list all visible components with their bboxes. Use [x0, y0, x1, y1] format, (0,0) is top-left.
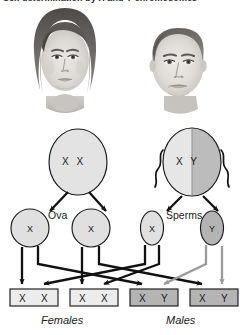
- offspring-box-3: [130, 289, 178, 306]
- ovum-2-allele: X: [88, 224, 94, 234]
- ovum-1-allele: X: [27, 224, 33, 234]
- offspring-2-allele-2: X: [101, 293, 108, 304]
- offspring-3-allele-1: X: [139, 293, 146, 304]
- sex-determination-figure: Sex determination by X and Y chromosomes: [0, 0, 240, 335]
- female-parent-genotype: X X: [62, 156, 86, 167]
- females-label: Females: [41, 314, 83, 326]
- males-label: Males: [166, 314, 195, 326]
- male-parent-photo: [136, 6, 218, 118]
- offspring-4-allele-2: Y: [221, 293, 228, 304]
- sperms-label: Sperms: [166, 209, 202, 221]
- figure-title: Sex determination by X and Y chromosomes: [0, 0, 240, 3]
- male-parent-genotype: X Y: [176, 156, 199, 167]
- ova-label: Ova: [48, 209, 67, 221]
- female-parent-photo: [22, 4, 108, 118]
- offspring-1-allele-2: X: [41, 293, 48, 304]
- offspring-2-allele-1: X: [79, 293, 86, 304]
- figure-title-strip: Sex determination by X and Y chromosomes: [0, 0, 240, 3]
- sperm-x-allele: X: [149, 224, 155, 234]
- offspring-box-4: [190, 289, 238, 306]
- offspring-box-1: [10, 289, 58, 306]
- offspring-box-2: [70, 289, 118, 306]
- offspring-4-allele-1: X: [199, 293, 206, 304]
- sperm-y-allele: Y: [209, 224, 215, 234]
- offspring-3-allele-2: Y: [161, 293, 168, 304]
- offspring-1-allele-1: X: [19, 293, 26, 304]
